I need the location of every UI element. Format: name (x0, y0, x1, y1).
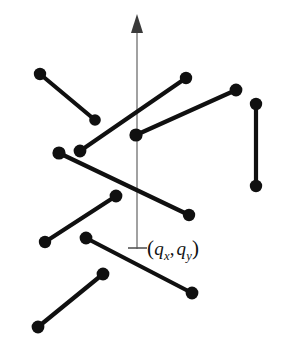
segment-bottom-left-ascending-line (38, 274, 103, 327)
segment-vertical-right (250, 98, 262, 192)
segment-bottom-left-ascending-start-endpoint (32, 321, 45, 334)
segment-vertical-right-start-endpoint (250, 98, 262, 110)
arrow-head-icon (131, 14, 143, 33)
segment-bottom-left-ascending-end-endpoint (97, 268, 110, 281)
segment-top-left-descending-line (40, 74, 95, 120)
figure-canvas: (qx, qy) (0, 0, 285, 350)
segment-top-left-descending-end-endpoint (89, 114, 101, 126)
segment-lower-left-ascending-end-endpoint (110, 190, 123, 203)
label-q-y: q (176, 238, 186, 259)
segment-lower-descending-start-endpoint (80, 232, 93, 245)
segment-long-ascending-left-end-endpoint (180, 72, 192, 84)
segment-lower-descending-end-endpoint (186, 287, 199, 300)
segment-top-left-descending-start-endpoint (34, 68, 46, 80)
segment-top-left-descending (34, 68, 101, 126)
segment-vertical-right-end-endpoint (250, 180, 262, 192)
segment-ascending-right-line (136, 90, 236, 135)
segment-long-ascending-left-start-endpoint (74, 145, 87, 158)
segment-ascending-right-start-endpoint (129, 128, 142, 141)
segment-long-descending-middle (52, 146, 195, 221)
segment-bottom-left-ascending (32, 268, 110, 334)
label-comma: , (170, 238, 175, 259)
label-q-x: q (154, 238, 164, 259)
segment-long-descending-middle-line (59, 153, 189, 215)
segments-group (32, 68, 263, 334)
segment-long-descending-middle-start-endpoint (52, 146, 65, 159)
label-close-paren: ) (192, 236, 199, 260)
query-point-label: (qx, qy) (147, 236, 199, 261)
segments-diagram (0, 0, 285, 350)
segment-long-descending-middle-end-endpoint (183, 209, 195, 221)
segment-ascending-right (129, 84, 242, 142)
segment-lower-left-ascending-start-endpoint (39, 236, 51, 248)
segment-ascending-right-end-endpoint (230, 84, 243, 97)
